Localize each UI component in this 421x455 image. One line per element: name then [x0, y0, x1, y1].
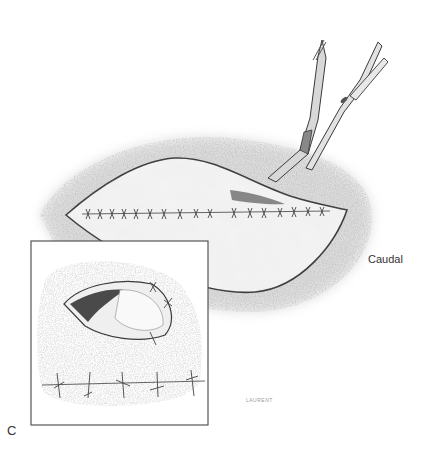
artist-signature: LAURENT	[246, 397, 273, 403]
panel-label: C	[7, 423, 16, 438]
inset-panel	[31, 241, 208, 425]
orientation-label-caudal: Caudal	[368, 253, 403, 265]
surgical-illustration	[0, 0, 421, 455]
